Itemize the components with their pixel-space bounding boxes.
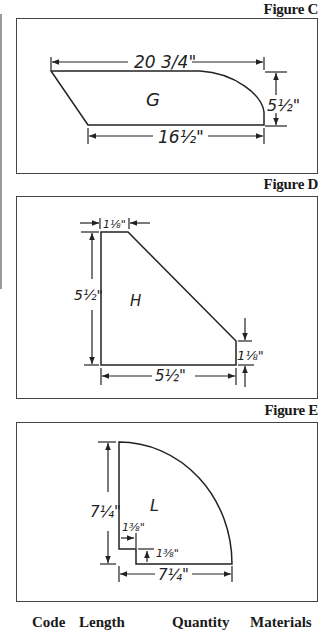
figure-e-bottom-dim: 7¼" [158,566,189,584]
part-h-shape [101,232,236,365]
part-h-label: H [130,292,141,310]
figure-c-bottom-dim: 16½" [158,127,204,147]
figure-c-top-dim: 20 3/4" [134,52,196,72]
figure-d-bottom-dim: 5½" [155,367,186,385]
figure-d-right-dim: 1⅛" [237,348,264,363]
header-length: Length [79,614,125,631]
figure-d-left-dim: 5½" [74,287,103,303]
figure-c-right-dim: 5½" [267,96,300,115]
figure-d-top-dim: 1⅛" [103,218,126,231]
header-code: Code [32,614,65,631]
part-l-label: L [150,496,159,515]
header-quantity: Quantity [172,614,230,631]
figure-e-notch-height-dim: 1⅜" [156,547,179,560]
part-g-label: G [146,89,160,110]
header-materials: Materials [250,614,312,631]
figure-e-notch-width-dim: 1⅜" [122,521,145,534]
figure-e-left-dim: 7¼" [90,503,121,521]
drawings: 20 3/4" G 5½" 16½" 1⅛" 5½" H 1⅛" 5½" 7¼"… [0,0,323,631]
